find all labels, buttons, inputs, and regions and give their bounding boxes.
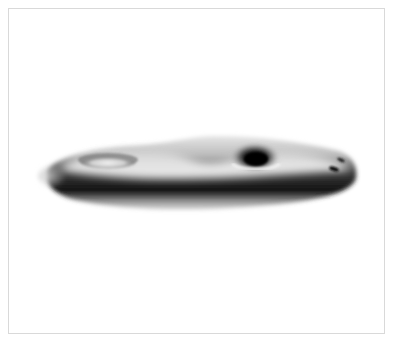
genus-3-surface-render [0,0,393,348]
left-hole [78,153,138,169]
